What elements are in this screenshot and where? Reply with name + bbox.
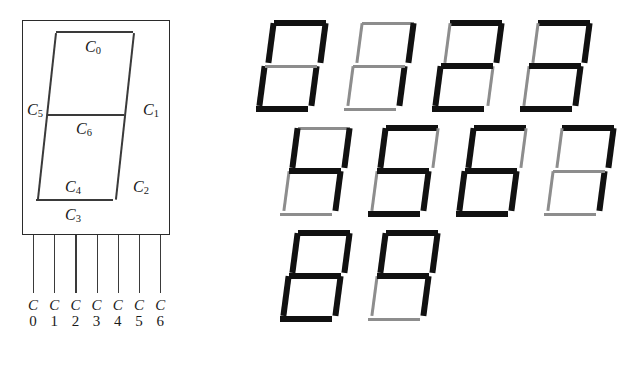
digit-8-segment-c2-on	[332, 276, 343, 316]
digit-9-segment-c1-on	[429, 233, 440, 273]
digit-0-segment-c4-on	[256, 66, 267, 106]
pin-line-c4	[118, 235, 119, 293]
digit-8-segment-c0-on	[298, 230, 350, 236]
digit-5-segment-c2-on	[420, 171, 431, 211]
pin-label-index: 0	[22, 314, 44, 330]
digit-glyph-9	[366, 228, 442, 324]
digit-0-segment-c1-on	[317, 23, 328, 63]
digit-0-segment-c5-on	[265, 23, 276, 63]
digit-6-segment-c2-on	[508, 171, 519, 211]
pin-line-c0	[33, 235, 34, 293]
diagram-segment-c6	[47, 114, 124, 116]
pin-label-c6: C6	[149, 298, 171, 330]
digit-8-segment-c4-on	[280, 276, 291, 316]
digit-7-segment-c2-on	[596, 171, 607, 211]
digit-9-segment-c3-off	[368, 318, 420, 321]
digit-9-segment-c5-on	[377, 233, 388, 273]
digit-5-segment-c3-on	[368, 211, 420, 217]
digit-8-segment-c5-on	[289, 233, 300, 273]
digit-1-segment-c1-on	[405, 23, 416, 63]
segment-label-c4: C4	[65, 179, 81, 197]
pin-label-index: 5	[128, 314, 150, 330]
digit-1-segment-c3-off	[344, 108, 396, 111]
digit-3-segment-c6-on	[529, 63, 581, 69]
digit-3-segment-c3-on	[520, 106, 572, 112]
digit-4-segment-c5-on	[289, 128, 300, 168]
pin-label-index: 4	[107, 314, 129, 330]
digit-1-segment-c4-off	[346, 66, 354, 106]
digit-2-segment-c5-off	[443, 23, 451, 63]
diagram-segment-c2	[115, 116, 126, 200]
digit-4-segment-c0-off	[298, 127, 350, 130]
segment-label-c5: C5	[27, 102, 43, 120]
digit-5-segment-c0-on	[386, 125, 438, 131]
digit-glyph-4	[278, 123, 354, 219]
digit-7-segment-c0-on	[562, 125, 614, 131]
digit-0-segment-c3-on	[256, 106, 308, 112]
segment-label-c1: C1	[143, 102, 159, 120]
digit-row	[248, 123, 630, 228]
digit-9-segment-c2-on	[420, 276, 431, 316]
pin-label-index: 1	[43, 314, 65, 330]
pin-label-c4: C4	[107, 298, 129, 330]
digit-2-segment-c0-on	[450, 20, 502, 26]
pin-label-c1: C1	[43, 298, 65, 330]
digit-5-segment-c5-on	[377, 128, 388, 168]
digit-4-segment-c3-off	[280, 213, 332, 216]
digit-2-segment-c4-on	[432, 66, 443, 106]
segment-label-c0: C0	[85, 39, 101, 57]
pin-label-index: 2	[64, 314, 86, 330]
digit-4-segment-c2-on	[332, 171, 343, 211]
digit-3-segment-c1-on	[581, 23, 592, 63]
pin-label-letter: C	[64, 298, 86, 314]
digit-6-segment-c1-off	[519, 128, 527, 168]
pin-label-letter: C	[128, 298, 150, 314]
display-outline-box: C0 C1 C2 C3 C4 C5 C6	[22, 20, 170, 235]
digit-0-segment-c0-on	[274, 20, 326, 26]
digit-7-segment-c6-off	[553, 170, 605, 173]
digit-pattern-grid	[248, 18, 630, 348]
digit-6-segment-c5-on	[465, 128, 476, 168]
digit-9-segment-c4-off	[370, 276, 378, 316]
digit-3-segment-c2-on	[572, 66, 583, 106]
digit-glyph-3	[518, 18, 594, 114]
digit-glyph-7	[542, 123, 618, 219]
digit-3-segment-c0-on	[538, 20, 590, 26]
digit-row	[248, 228, 630, 333]
pin-label-index: 3	[86, 314, 108, 330]
digit-1-segment-c5-off	[355, 23, 363, 63]
digit-glyph-0	[254, 18, 330, 114]
pin-label-letter: C	[107, 298, 129, 314]
digit-7-segment-c3-off	[544, 213, 596, 216]
digit-4-segment-c1-on	[341, 128, 352, 168]
pin-label-index: 6	[149, 314, 171, 330]
pin-label-c2: C2	[64, 298, 86, 330]
digit-5-segment-c1-off	[431, 128, 439, 168]
diagram-segment-c3	[36, 199, 113, 201]
pin-label-c0: C0	[22, 298, 44, 330]
digit-glyph-8	[278, 228, 354, 324]
pin-lines	[22, 235, 170, 295]
diagram-segment-c5	[46, 33, 57, 117]
pin-label-c3: C3	[86, 298, 108, 330]
digit-3-segment-c5-off	[531, 23, 539, 63]
digit-0-segment-c2-on	[308, 66, 319, 106]
digit-row	[248, 18, 630, 123]
pin-labels: C0C1C2C3C4C5C6	[22, 298, 170, 348]
pin-label-c5: C5	[128, 298, 150, 330]
pin-line-c2	[75, 235, 76, 293]
digit-6-segment-c0-on	[474, 125, 526, 131]
segment-label-c6: C6	[76, 121, 92, 139]
digit-2-segment-c3-on	[432, 106, 484, 112]
digit-4-segment-c6-on	[289, 168, 341, 174]
digit-3-segment-c4-off	[522, 66, 530, 106]
pin-line-c1	[54, 235, 55, 293]
digit-7-segment-c5-off	[555, 128, 563, 168]
segment-label-c3: C3	[65, 207, 81, 225]
digit-9-segment-c6-on	[377, 273, 429, 279]
digit-2-segment-c2-off	[486, 66, 494, 106]
digit-glyph-2	[430, 18, 506, 114]
digit-4-segment-c4-off	[282, 171, 290, 211]
digit-9-segment-c0-on	[386, 230, 438, 236]
pin-label-letter: C	[149, 298, 171, 314]
